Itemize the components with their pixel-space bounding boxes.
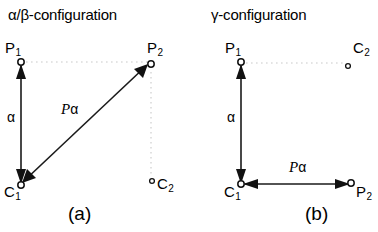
node-label-c2-text: C bbox=[353, 39, 364, 56]
node-label-c2: C2 bbox=[353, 40, 369, 56]
node-label-p2-subscript: 2 bbox=[158, 47, 164, 58]
vector-label-alpha: α bbox=[227, 110, 235, 125]
node-label-c2-subscript: 2 bbox=[364, 47, 370, 58]
node-label-p1-text: P bbox=[225, 39, 235, 56]
vector-label-p-alpha-upright-alpha: α bbox=[298, 159, 306, 175]
panel-caption: (b) bbox=[305, 203, 328, 225]
node-label-p1: P1 bbox=[225, 40, 241, 56]
p-alpha-vector-arrowhead-left bbox=[243, 179, 258, 189]
node-label-p1: P1 bbox=[5, 40, 21, 56]
node-label-p2-text: P bbox=[356, 183, 366, 200]
panel-caption: (a) bbox=[68, 203, 91, 225]
vector-label-p-alpha-italic-p: P bbox=[61, 101, 70, 117]
node-label-p2-subscript: 2 bbox=[367, 191, 373, 202]
node-label-p1-text: P bbox=[5, 39, 15, 56]
panel-b-vector-graphics bbox=[189, 0, 378, 232]
vector-label-p-alpha-italic-p: P bbox=[289, 159, 298, 175]
node-label-c1-text: C bbox=[4, 183, 15, 200]
node-label-c1: C1 bbox=[4, 184, 20, 200]
node-marker-p2 bbox=[148, 61, 154, 67]
alpha-vector-arrowhead-top bbox=[16, 64, 26, 79]
vector-label-p-alpha-upright-alpha: α bbox=[70, 101, 78, 117]
node-label-c1-subscript: 1 bbox=[15, 191, 21, 202]
panel-a-vector-graphics bbox=[0, 0, 189, 232]
node-label-p2: P2 bbox=[356, 184, 372, 200]
node-marker-c2 bbox=[346, 64, 351, 69]
vector-label-alpha: α bbox=[7, 110, 15, 125]
node-label-c1-text: C bbox=[224, 183, 235, 200]
panel-gamma-configuration: γ-configuration P1 C2 C1 bbox=[189, 0, 378, 232]
node-marker-p1 bbox=[18, 59, 24, 65]
p-alpha-vector-line bbox=[24, 66, 146, 181]
node-marker-p1 bbox=[238, 59, 244, 65]
node-label-c1-subscript: 1 bbox=[235, 191, 241, 202]
panel-alpha-beta-configuration: α/β-configuration P1 P2 bbox=[0, 0, 189, 232]
node-label-c2: C2 bbox=[157, 176, 173, 192]
node-label-c2-subscript: 2 bbox=[168, 183, 174, 194]
node-label-p1-subscript: 1 bbox=[236, 47, 242, 58]
vector-label-p-alpha: Pα bbox=[61, 102, 78, 117]
node-label-p2: P2 bbox=[147, 40, 163, 56]
node-label-c1: C1 bbox=[224, 184, 240, 200]
figure-container: α/β-configuration P1 P2 bbox=[0, 0, 378, 232]
node-marker-c2 bbox=[150, 179, 155, 184]
node-marker-p2 bbox=[348, 180, 354, 186]
vector-label-p-alpha: Pα bbox=[289, 160, 306, 175]
node-label-p1-subscript: 1 bbox=[16, 47, 22, 58]
alpha-vector-arrowhead-top bbox=[236, 64, 246, 79]
node-label-p2-text: P bbox=[147, 39, 157, 56]
node-label-c2-text: C bbox=[157, 175, 168, 192]
